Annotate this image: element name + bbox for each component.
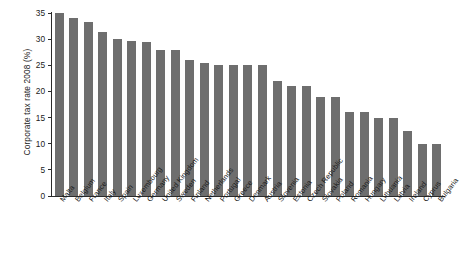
bar <box>55 13 64 196</box>
x-axis-tick-labels: MaltaBelgiumFranceItalySpainLuxembourgGe… <box>52 198 444 264</box>
y-axis-tick-label: 5 <box>31 165 45 175</box>
y-axis-tick-label: 15 <box>31 113 45 123</box>
y-axis-tick: 0 <box>31 191 52 201</box>
bar-series <box>52 13 444 196</box>
bar <box>127 41 136 196</box>
bar <box>98 32 107 196</box>
bar <box>84 22 93 196</box>
y-axis-tick-label: 35 <box>31 8 45 18</box>
bar <box>113 39 122 196</box>
y-axis-tick-label: 25 <box>31 60 45 70</box>
plot-area: 05101520253035 <box>52 13 444 196</box>
bar <box>200 63 209 196</box>
bar <box>69 18 78 196</box>
y-axis-tick: 15 <box>31 113 52 123</box>
y-axis-tick-label: 30 <box>31 34 45 44</box>
y-axis-tick: 30 <box>31 34 52 44</box>
y-axis-tick-label: 20 <box>31 86 45 96</box>
bar <box>243 65 252 196</box>
y-axis-tick: 10 <box>31 139 52 149</box>
y-axis-tick: 25 <box>31 60 52 70</box>
y-axis-tick: 20 <box>31 86 52 96</box>
y-axis-tick-label: 10 <box>31 139 45 149</box>
y-axis-tick: 35 <box>31 8 52 18</box>
y-axis-tick-label: 0 <box>31 191 45 201</box>
y-axis-tick: 5 <box>31 165 52 175</box>
